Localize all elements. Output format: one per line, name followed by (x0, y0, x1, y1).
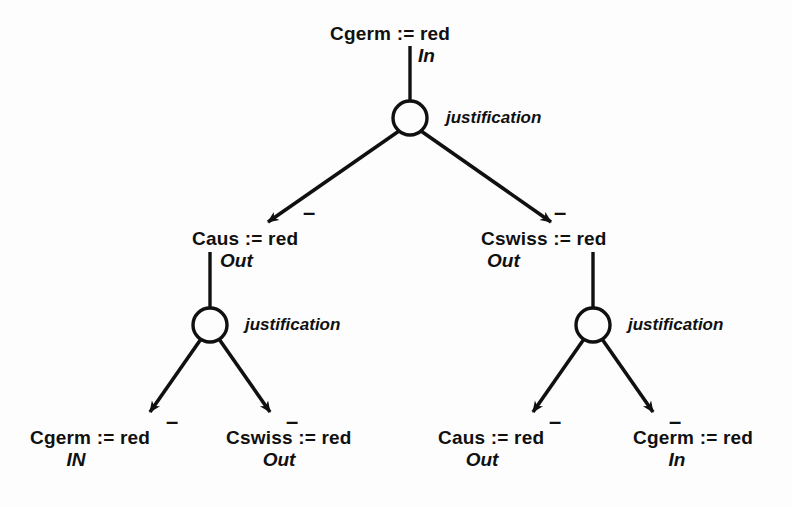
node-leaf-2[interactable]: Cswiss := red Out (226, 428, 376, 470)
node-leaf-3[interactable]: Caus := red Out (438, 428, 568, 470)
edge-left-to-leaf-1 (150, 339, 201, 412)
edge-left-to-leaf-2 (219, 339, 270, 412)
node-root[interactable]: Cgerm := red In (330, 24, 490, 66)
node-root-status: In (330, 46, 490, 66)
node-leaf-4[interactable]: Cgerm := red In (633, 428, 773, 470)
node-leaf-1[interactable]: Cgerm := red IN (30, 428, 170, 470)
justification-label-right: justification (628, 315, 723, 335)
justification-label-root: justification (446, 108, 541, 128)
node-leaf-2-name: Cswiss := red (226, 428, 376, 448)
edge-right-to-leaf-4 (602, 339, 653, 412)
node-leaf-4-name: Cgerm := red (633, 428, 773, 448)
edge-sign-right-to-leaf-4: – (669, 417, 681, 427)
node-mid-right-status: Out (481, 251, 651, 271)
node-leaf-3-status: Out (438, 450, 568, 470)
edge-sign-left-to-leaf-1: – (166, 417, 178, 427)
edge-sign-root-to-mid-left: – (303, 208, 315, 218)
node-leaf-1-name: Cgerm := red (30, 428, 170, 448)
node-mid-left[interactable]: Caus := red Out (192, 229, 342, 271)
node-mid-right-name: Cswiss := red (481, 229, 651, 249)
node-leaf-4-status: In (633, 450, 773, 470)
edge-sign-left-to-leaf-2: – (286, 417, 298, 427)
node-mid-right[interactable]: Cswiss := red Out (481, 229, 651, 271)
node-mid-left-name: Caus := red (192, 229, 342, 249)
node-mid-left-status: Out (192, 251, 342, 271)
edge-root-to-mid-left (268, 131, 399, 222)
node-root-name: Cgerm := red (330, 24, 490, 44)
edge-sign-root-to-mid-right: – (554, 208, 566, 218)
edge-root-to-mid-right (421, 131, 551, 222)
edge-sign-right-to-leaf-3: – (549, 417, 561, 427)
justification-label-left: justification (245, 315, 340, 335)
diagram-canvas: Cgerm := red In justification Caus := re… (0, 0, 792, 507)
edge-right-to-leaf-3 (533, 339, 584, 412)
justification-circle-left (193, 308, 227, 342)
node-leaf-1-status: IN (30, 450, 170, 470)
node-leaf-2-status: Out (226, 450, 376, 470)
justification-circle-right (576, 308, 610, 342)
